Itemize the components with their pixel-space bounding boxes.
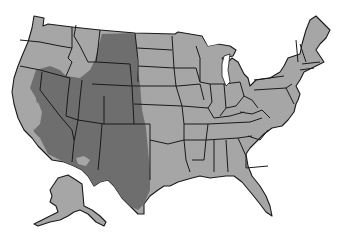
us-map — [0, 0, 341, 237]
